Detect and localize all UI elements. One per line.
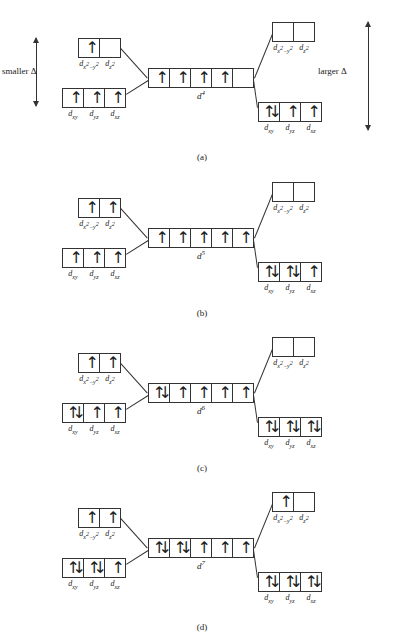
orbital-box[interactable] [272,182,294,202]
orbital-box[interactable] [232,538,254,558]
single-electron [212,229,232,247]
orbital-box[interactable] [78,38,100,58]
single-electron [100,509,120,527]
orbital-box[interactable] [300,417,322,437]
orbital-label: dz2 [293,43,315,54]
up-arrow-icon [240,384,247,402]
weak-field-t2g-boxes [62,403,126,423]
orbital-box[interactable] [232,383,254,403]
orbital-box[interactable] [272,22,294,42]
orbital-box[interactable] [272,337,294,357]
single-electron [191,384,211,402]
orbital-box[interactable] [62,248,84,268]
orbital-box[interactable] [62,558,84,578]
up-arrow-icon [219,69,226,87]
orbital-box[interactable] [211,383,233,403]
down-arrow-icon [269,418,276,436]
single-electron [100,199,120,217]
orbital-label: dxz [104,424,126,435]
orbital-box[interactable] [279,417,301,437]
orbital-box[interactable] [293,182,315,202]
up-arrow-icon [86,354,93,372]
orbital-label: dyz [279,123,301,134]
strong-field-eg-boxes [272,492,315,512]
single-electron [191,539,211,557]
orbital-box[interactable] [148,228,170,248]
orbital-box[interactable] [104,88,126,108]
orbital-box[interactable] [99,198,121,218]
connector-line [126,395,149,410]
panel-b: dx2−y2dz2dxydyzdxzd5dx2−y2dz2dxydyzdxz(b… [0,170,404,325]
weak-field-t2g-boxes [62,88,126,108]
strong-field-eg-boxes [272,182,315,202]
orbital-box[interactable] [300,572,322,592]
orbital-box[interactable] [279,572,301,592]
orbital-box[interactable] [78,198,100,218]
orbital-box[interactable] [258,102,280,122]
orbital-box[interactable] [62,403,84,423]
up-arrow-icon [198,69,205,87]
single-electron [105,89,125,107]
orbital-box[interactable] [83,88,105,108]
single-electron [233,539,253,557]
up-arrow-icon [198,384,205,402]
orbital-box[interactable] [258,572,280,592]
orbital-box[interactable] [258,417,280,437]
orbital-label: dx2−y2 [78,529,100,540]
orbital-box[interactable] [83,248,105,268]
electron-pair [63,404,83,422]
orbital-box[interactable] [211,228,233,248]
orbital-box[interactable] [300,102,322,122]
orbital-box[interactable] [190,383,212,403]
orbital-box[interactable] [232,228,254,248]
orbital-box[interactable] [169,68,191,88]
orbital-box[interactable] [190,538,212,558]
orbital-box[interactable] [190,68,212,88]
orbital-label: dxz [300,123,322,134]
orbital-box[interactable] [293,337,315,357]
orbital-box[interactable] [293,492,315,512]
orbital-box[interactable] [169,538,191,558]
connector-line [254,194,273,238]
orbital-box[interactable] [99,508,121,528]
orbital-label-row: dxydyzdxz [62,109,126,120]
orbital-box[interactable] [190,228,212,248]
orbital-label: dxy [62,269,84,280]
electron-pair [259,418,279,436]
orbital-box[interactable] [279,102,301,122]
up-arrow-icon [112,89,119,107]
up-arrow-icon [91,404,98,422]
orbital-box[interactable] [272,492,294,512]
orbital-box[interactable] [83,558,105,578]
orbital-box[interactable] [300,262,322,282]
orbital-label: dz2 [99,219,121,230]
up-arrow-icon [112,559,119,577]
orbital-box[interactable] [83,403,105,423]
orbital-box[interactable] [148,383,170,403]
orbital-box[interactable] [279,262,301,282]
orbital-box[interactable] [99,38,121,58]
single-electron [191,229,211,247]
orbital-box[interactable] [104,248,126,268]
orbital-box[interactable] [232,68,254,88]
orbital-box[interactable] [104,558,126,578]
orbital-box[interactable] [293,22,315,42]
up-arrow-icon [177,69,184,87]
orbital-box[interactable] [78,353,100,373]
orbital-box[interactable] [169,383,191,403]
orbital-box[interactable] [148,68,170,88]
orbital-box[interactable] [104,403,126,423]
orbital-box[interactable] [62,88,84,108]
orbital-box[interactable] [99,353,121,373]
orbital-box[interactable] [211,68,233,88]
weak-field-t2g-boxes [62,248,126,268]
orbital-box[interactable] [78,508,100,528]
orbital-box[interactable] [169,228,191,248]
orbital-box[interactable] [148,538,170,558]
electron-pair [63,559,83,577]
free-ion-boxes [148,538,254,558]
orbital-box[interactable] [258,262,280,282]
up-arrow-icon [287,103,294,121]
orbital-label-row: dx2−y2dz2 [78,59,121,70]
orbital-box[interactable] [211,538,233,558]
